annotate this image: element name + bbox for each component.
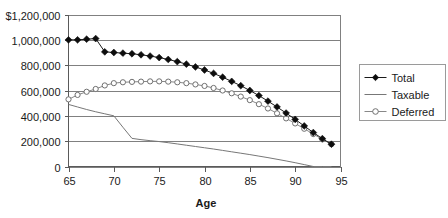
deferred-data-point	[202, 83, 207, 88]
series-deferred	[66, 79, 334, 147]
total-data-point	[83, 36, 90, 43]
ytick-labels-group: 0200,000400,000600,000800,0001,000,000$1…	[5, 10, 68, 174]
deferred-data-point	[148, 79, 153, 84]
x-tick-label: 95	[335, 175, 347, 187]
deferred-data-point	[66, 97, 71, 102]
x-tick-label: 70	[108, 175, 120, 187]
legend-label: Total	[392, 72, 415, 84]
legend-marker-circle-icon	[373, 109, 379, 115]
total-data-point	[228, 78, 235, 85]
y-tick-label: 200,000	[21, 136, 61, 148]
xtick-labels-group: 65707580859095	[63, 167, 347, 187]
deferred-data-point	[120, 80, 125, 85]
series-taxable	[69, 104, 332, 166]
y-tick-label: 1,000,000	[12, 35, 61, 47]
total-data-point	[120, 50, 127, 57]
legend-label: Taxable	[392, 89, 430, 101]
deferred-data-point	[184, 81, 189, 86]
deferred-data-point	[193, 82, 198, 87]
total-data-point	[156, 54, 163, 61]
taxable-line	[69, 104, 332, 166]
total-data-point	[210, 70, 217, 77]
total-data-point	[174, 58, 181, 65]
total-data-point	[65, 36, 72, 43]
deferred-data-point	[166, 79, 171, 84]
legend: TotalTaxableDeferred	[360, 65, 446, 121]
axes-group	[69, 15, 341, 167]
total-data-point	[283, 110, 290, 117]
total-data-point	[129, 50, 136, 57]
total-data-point	[110, 49, 117, 56]
deferred-data-point	[175, 80, 180, 85]
chart-container: 0200,000400,000600,000800,0001,000,000$1…	[0, 0, 448, 218]
total-data-point	[237, 82, 244, 89]
total-data-point	[219, 74, 226, 81]
y-tick-label: $1,200,000	[5, 10, 60, 22]
gridlines-group	[69, 16, 341, 168]
total-data-point	[274, 104, 281, 111]
y-tick-label: 800,000	[21, 60, 61, 72]
deferred-data-point	[265, 106, 270, 111]
total-data-point	[192, 64, 199, 71]
y-tick-label: 0	[54, 162, 60, 174]
deferred-data-point	[102, 83, 107, 88]
deferred-data-point	[84, 89, 89, 94]
deferred-data-point	[211, 85, 216, 90]
total-data-point	[147, 53, 154, 60]
y-tick-label: 400,000	[21, 111, 61, 123]
legend-label: Deferred	[392, 106, 435, 118]
x-tick-label: 65	[63, 175, 75, 187]
x-tick-label: 75	[153, 175, 165, 187]
deferred-data-point	[111, 81, 116, 86]
deferred-data-point	[247, 98, 252, 103]
x-axis-title: Age	[196, 197, 217, 209]
deferred-data-point	[256, 102, 261, 107]
deferred-data-point	[274, 111, 279, 116]
total-data-point	[256, 92, 263, 99]
total-data-point	[74, 36, 81, 43]
deferred-data-point	[75, 92, 80, 97]
deferred-data-point	[93, 86, 98, 91]
line-chart: 0200,000400,000600,000800,0001,000,000$1…	[0, 0, 448, 218]
total-data-point	[101, 48, 108, 55]
total-data-point	[201, 67, 208, 74]
deferred-line	[69, 81, 332, 144]
deferred-data-point	[157, 79, 162, 84]
total-data-point	[246, 87, 253, 94]
y-tick-label: 600,000	[21, 86, 61, 98]
x-tick-label: 80	[199, 175, 211, 187]
total-data-point	[138, 51, 145, 58]
deferred-data-point	[138, 79, 143, 84]
deferred-data-point	[229, 91, 234, 96]
deferred-data-point	[220, 88, 225, 93]
total-data-point	[183, 61, 190, 68]
x-tick-label: 90	[289, 175, 301, 187]
total-data-point	[265, 98, 272, 105]
deferred-data-point	[238, 94, 243, 99]
deferred-data-point	[129, 79, 134, 84]
x-tick-label: 85	[244, 175, 256, 187]
total-data-point	[165, 56, 172, 63]
